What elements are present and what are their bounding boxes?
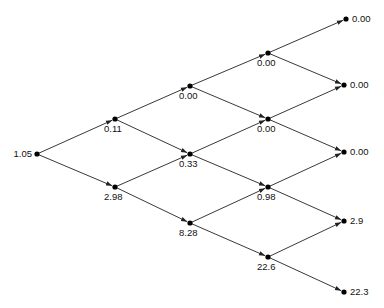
node-value-label: 1.05 [14, 149, 33, 159]
node-value-label: 0.98 [257, 192, 276, 202]
edge-arrow [268, 222, 341, 257]
edge-arrow [190, 120, 265, 154]
edge-arrow [190, 223, 265, 256]
edge-arrow [115, 87, 187, 119]
edge-arrow [268, 53, 341, 84]
nodes-layer [34, 16, 348, 294]
tree-node-dot [265, 254, 270, 259]
tree-node-dot [112, 184, 117, 189]
tree-node-dot [187, 151, 192, 156]
edge-arrow [190, 86, 265, 118]
edge-arrow [37, 154, 112, 186]
node-value-label: 2.9 [350, 216, 363, 226]
tree-node-dot [341, 218, 346, 223]
tree-node-dot [343, 16, 348, 21]
tree-node-dot [187, 220, 192, 225]
edge-arrow [268, 153, 341, 187]
edge-arrow [268, 187, 341, 220]
node-value-label: 8.28 [179, 228, 198, 238]
tree-node-dot [265, 184, 270, 189]
edge-arrow [268, 257, 341, 291]
edge-arrow [37, 120, 112, 154]
node-value-label: 0.00 [350, 147, 369, 157]
tree-node-dot [341, 149, 346, 154]
node-value-label: 2.98 [104, 192, 123, 202]
edge-arrow [268, 119, 341, 151]
edge-arrow [268, 86, 341, 119]
node-value-label: 0.00 [257, 58, 276, 68]
node-value-label: 22.3 [350, 287, 369, 297]
tree-node-dot [265, 116, 270, 121]
tree-node-dot [187, 83, 192, 88]
edge-arrow [115, 119, 187, 153]
tree-node-dot [34, 151, 39, 156]
tree-node-dot [341, 289, 346, 294]
edge-arrow [190, 154, 265, 186]
edge-arrow [190, 188, 265, 223]
edge-arrow [115, 155, 187, 187]
tree-node-dot [341, 82, 346, 87]
binomial-tree-diagram [0, 0, 384, 308]
edge-arrow [268, 20, 343, 53]
edge-arrow [190, 54, 265, 86]
edge-arrow [115, 187, 187, 222]
node-value-label: 0.00 [179, 91, 198, 101]
node-value-label: 0.00 [350, 80, 369, 90]
tree-node-dot [265, 50, 270, 55]
node-value-label: 0.11 [104, 124, 122, 134]
node-value-label: 22.6 [257, 262, 276, 272]
node-value-label: 0.00 [352, 14, 371, 24]
tree-node-dot [112, 116, 117, 121]
node-value-label: 0.00 [257, 124, 276, 134]
node-value-label: 0.33 [179, 159, 198, 169]
